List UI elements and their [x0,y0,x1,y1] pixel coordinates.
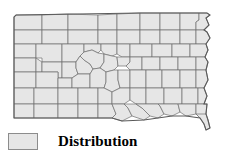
county-polygon [78,104,98,118]
county-polygon [146,70,162,88]
county-polygon [198,88,207,104]
county-polygon [112,88,130,104]
county-polygon [36,58,42,72]
county-polygon [180,70,196,88]
county-polygon [58,78,72,88]
county-polygon [130,88,146,104]
county-polygon [98,30,117,44]
county-polygon [58,88,78,104]
county-polygon [68,14,98,30]
legend-label-distribution: Distribution [58,134,138,149]
county-polygon [118,70,130,88]
county-polygon [104,70,120,92]
county-polygon [14,44,36,58]
county-polygon [14,72,36,88]
county-polygon [117,30,140,44]
county-polygon [36,72,58,88]
county-polygon [117,13,140,30]
county-polygon [140,13,160,30]
county-polygon [180,30,196,44]
county-polygon [160,30,180,44]
county-polygon [58,104,78,118]
county-polygon [182,88,198,104]
county-polygon [162,70,180,88]
county-polygon [178,104,196,116]
legend: Distribution [8,130,138,152]
county-polygon [14,58,36,72]
county-polygon [142,57,160,70]
county-polygon [160,57,178,70]
county-polygon [36,44,62,62]
legend-swatch-distribution [8,133,38,150]
county-polygon [152,44,172,57]
county-polygon [178,57,196,70]
county-polygon [130,44,152,57]
distribution-map-figure: Distribution [0,0,227,157]
county-polygon [140,30,160,44]
county-polygon [34,88,58,104]
county-polygon [98,14,117,30]
county-polygon [117,44,130,57]
county-polygon [160,13,180,30]
county-polygon [172,44,190,57]
county-polygon [146,88,164,104]
map-container [0,0,227,132]
county-polygon [14,88,34,104]
county-polygon [14,104,34,118]
county-polygon [72,74,90,88]
county-polygon [68,30,98,44]
county-polygon [78,88,98,104]
county-polygon [42,14,68,30]
south-dakota-map-svg [0,0,227,132]
county-polygon [130,70,146,88]
county-polygon [164,88,182,104]
county-polygon [42,30,68,44]
county-polygon [34,104,58,118]
county-polygon [14,30,42,44]
county-polygon [14,15,42,30]
county-layer [14,13,210,130]
county-polygon [90,68,106,88]
